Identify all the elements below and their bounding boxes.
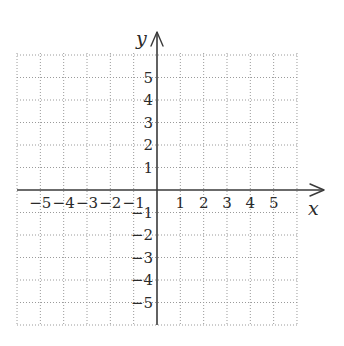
axes — [17, 32, 324, 325]
y-tick-label: 2 — [143, 136, 153, 154]
y-tick-label: −3 — [131, 249, 153, 267]
y-tick-label: 1 — [143, 159, 153, 177]
x-axis-label: x — [308, 197, 319, 219]
y-tick-label: −1 — [131, 204, 153, 222]
y-tick-label: −4 — [131, 271, 153, 289]
y-tick-label: 5 — [143, 69, 153, 87]
x-tick-label: −3 — [76, 194, 98, 212]
x-tick-label: 2 — [199, 194, 209, 212]
y-tick-label: 4 — [143, 91, 153, 109]
x-tick-label: −2 — [99, 194, 121, 212]
y-tick-label: 3 — [143, 114, 153, 132]
x-tick-label: −4 — [53, 194, 75, 212]
y-tick-label: −5 — [131, 294, 153, 312]
x-tick-label: 3 — [222, 194, 232, 212]
x-tick-label: 5 — [269, 194, 279, 212]
x-tick-label: −5 — [29, 194, 51, 212]
coordinate-plane: −5−4−3−2−112345 54321−1−2−3−4−5 x y — [0, 0, 344, 346]
y-tick-label: −2 — [131, 226, 153, 244]
x-tick-labels: −5−4−3−2−112345 — [29, 194, 278, 212]
x-tick-label: 4 — [246, 194, 256, 212]
y-axis-label: y — [135, 27, 147, 49]
x-tick-label: 1 — [176, 194, 186, 212]
